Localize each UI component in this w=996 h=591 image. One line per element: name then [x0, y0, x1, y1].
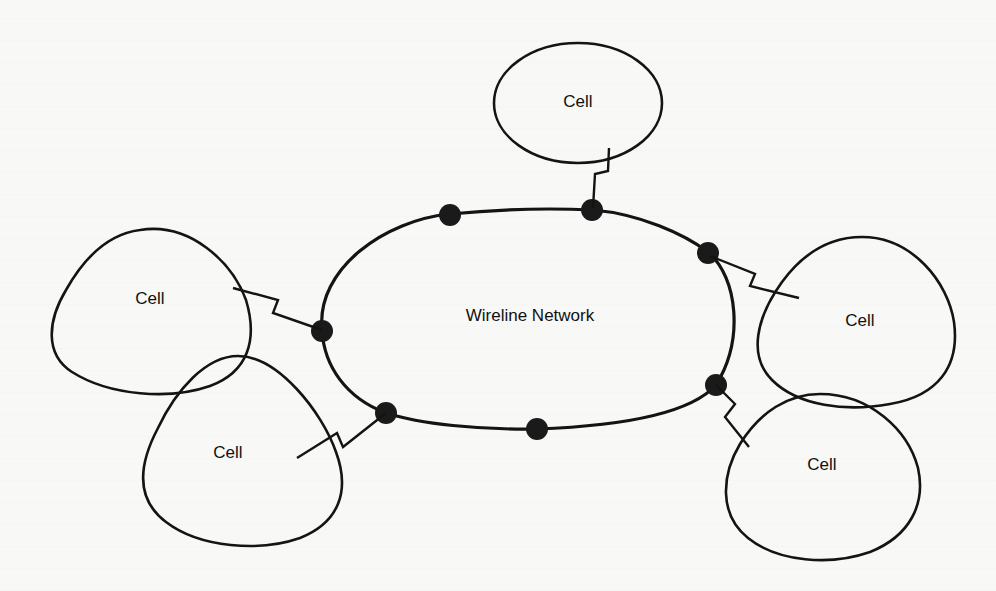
network-node-4: [311, 320, 333, 342]
cell-lower-left-label: Cell: [213, 443, 242, 462]
network-node-1: [439, 204, 461, 226]
cell-top: Cell: [494, 43, 662, 163]
network-node-7: [526, 418, 548, 440]
cell-lower-right-label: Cell: [807, 455, 836, 474]
cell-lower-right: Cell: [726, 394, 920, 560]
wireline-network-label: Wireline Network: [466, 306, 595, 325]
cell-lower-right-outline: [726, 394, 920, 560]
wireless-link-upper-left-icon: [233, 288, 322, 330]
cell-upper-left: Cell: [52, 229, 251, 394]
cell-upper-right-label: Cell: [845, 311, 874, 330]
cell-lower-left: Cell: [143, 356, 342, 546]
cell-upper-left-outline: [52, 229, 251, 394]
cell-upper-left-label: Cell: [135, 289, 164, 308]
cell-top-label: Cell: [563, 92, 592, 111]
wireless-link-lower-left-icon: [297, 413, 386, 458]
network-node-3: [697, 242, 719, 264]
wireline-network: Wireline Network: [311, 199, 734, 440]
wireless-link-top-icon: [593, 148, 609, 208]
cell-upper-right: Cell: [758, 237, 955, 407]
network-diagram: Cell Cell Cell Cell Cell Wireline Networ…: [0, 0, 996, 591]
network-node-2: [581, 199, 603, 221]
